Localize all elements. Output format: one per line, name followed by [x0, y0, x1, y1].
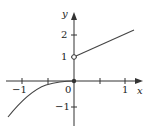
x-tick-label-neg1: −1: [12, 84, 27, 95]
closed-point: [72, 79, 76, 83]
origin-label: 0: [65, 84, 71, 95]
y-tick-label-neg1: −1: [55, 101, 70, 112]
x-tick-label-pos1: 1: [122, 84, 128, 95]
y-axis-arrow-icon: [71, 12, 77, 20]
y-tick-label-2: 2: [61, 29, 67, 40]
line-right-branch: [76, 30, 134, 56]
open-point: [72, 55, 77, 60]
y-tick-label-1: 1: [61, 51, 67, 62]
x-axis-arrow-icon: [135, 78, 143, 84]
x-axis-label: x: [137, 85, 143, 96]
y-axis-label: y: [61, 8, 68, 19]
chart: y x 0 −1 1 2 1 −1: [0, 0, 151, 132]
